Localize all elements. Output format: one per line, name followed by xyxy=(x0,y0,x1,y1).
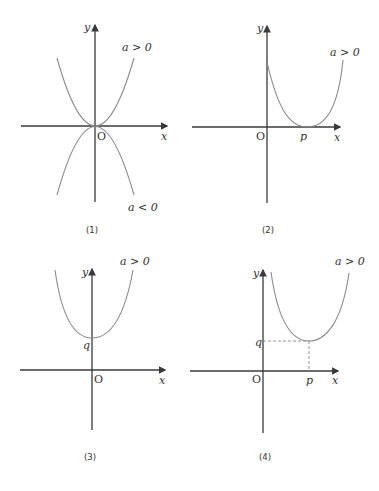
x-label: x xyxy=(332,374,339,387)
panel-2: y a > 0 O p x (2) xyxy=(192,22,360,235)
p-label: p xyxy=(300,130,307,143)
y-label: y xyxy=(256,22,264,35)
x-label: x xyxy=(334,131,341,144)
q-label: q xyxy=(83,339,90,352)
q-label: q xyxy=(255,336,262,349)
origin-label: O xyxy=(94,373,103,386)
parabola xyxy=(267,60,343,127)
y-label: y xyxy=(83,21,91,34)
caption: (3) xyxy=(84,452,96,462)
caption: (1) xyxy=(86,225,98,235)
x-label: x xyxy=(159,374,166,387)
parabola-diagrams: y a > 0 O x a < 0 (1) y a > 0 O p x (2) … xyxy=(0,0,379,491)
curve-label-up: a > 0 xyxy=(122,41,152,54)
y-label: y xyxy=(81,266,89,279)
parabola xyxy=(55,270,133,338)
parabola xyxy=(271,272,349,341)
panel-1: y a > 0 O x a < 0 (1) xyxy=(21,21,168,235)
origin-label: O xyxy=(256,130,265,143)
panel-3: y a > 0 q O x (3) xyxy=(20,255,166,462)
curve-label: a > 0 xyxy=(330,46,360,59)
p-label: p xyxy=(306,374,313,387)
origin-label: O xyxy=(97,130,106,143)
caption: (4) xyxy=(259,452,271,462)
curve-label: a > 0 xyxy=(120,255,150,268)
curve-label: a > 0 xyxy=(335,255,365,268)
y-label: y xyxy=(252,267,260,280)
curve-label-down: a < 0 xyxy=(128,201,158,214)
caption: (2) xyxy=(262,225,274,235)
origin-label: O xyxy=(252,373,261,386)
panel-4: y a > 0 q O p x (4) xyxy=(190,255,365,462)
x-label: x xyxy=(161,130,168,143)
